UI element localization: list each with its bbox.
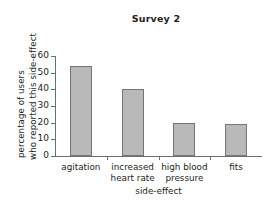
y-axis-tick [51,156,55,157]
y-axis-tick [51,139,55,140]
bar [122,89,144,156]
x-axis-tick [210,156,211,160]
y-axis-title-line-2: who reported this side-effect [28,33,38,160]
y-axis-tick [51,106,55,107]
y-axis-tick [51,123,55,124]
y-axis-tick-label: 10 [38,133,49,143]
category-label-line: pressure [155,173,215,184]
plot-area: 0102030405060 [55,56,262,157]
y-axis-tick-label: 40 [38,83,49,93]
y-axis-tick [51,56,55,57]
chart-title: Survey 2 [0,13,276,24]
y-axis-tick [51,73,55,74]
x-axis-tick [159,156,160,160]
bar-chart-figure: Survey 2 percentage of users who reporte… [0,0,276,204]
bar [225,124,247,156]
y-axis-line [55,56,56,157]
y-axis-tick-label: 60 [38,50,49,60]
x-axis-tick [107,156,108,160]
y-axis-tick-label: 0 [43,150,49,160]
y-axis-tick [51,89,55,90]
x-axis-category-label: fits [206,162,266,173]
category-label-line: fits [206,162,266,173]
bar [70,66,92,156]
y-axis-title: percentage of users who reported this si… [4,28,38,160]
y-axis-tick-label: 50 [38,67,49,77]
x-axis-title: side-effect [55,186,262,196]
bar [173,123,195,156]
y-axis-tick-label: 20 [38,117,49,127]
y-axis-title-line-1: percentage of users [16,70,26,158]
y-axis-tick-label: 30 [38,100,49,110]
